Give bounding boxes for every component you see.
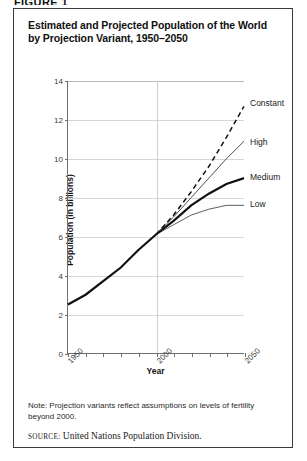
legend-label-constant: Constant <box>250 98 284 108</box>
x-tick-2040 <box>227 353 228 357</box>
figure-panel: Estimated and Projected Population of th… <box>13 8 293 448</box>
series-line-constant <box>156 106 244 234</box>
x-tick-2010 <box>174 353 175 357</box>
legend-label-medium: Medium <box>250 172 280 182</box>
chart-area: Population (in billions) 0 2 4 6 8 1 <box>14 65 294 375</box>
figure-note: Note: Projection variants reflect assump… <box>28 401 278 422</box>
x-tick-1960 <box>86 353 87 357</box>
x-tick-2020 <box>192 353 193 357</box>
source-prefix: SOURCE: <box>28 433 60 441</box>
x-tick-1980 <box>121 353 122 357</box>
y-tick-label-12: 12 <box>54 116 63 125</box>
source-text: United Nations Population Division. <box>63 431 202 441</box>
y-tick-label-6: 6 <box>59 233 63 242</box>
y-tick-label-14: 14 <box>54 77 63 86</box>
y-tick-label-8: 8 <box>59 194 63 203</box>
y-tick-label-4: 4 <box>59 272 63 281</box>
legend-label-high: High <box>250 137 267 147</box>
x-axis-label: Year <box>67 366 244 376</box>
y-tick-label-2: 2 <box>59 311 63 320</box>
figure-number-label: FIGURE 1 <box>14 0 68 5</box>
x-tick-1990 <box>139 353 140 357</box>
figure-source: SOURCE: United Nations Population Divisi… <box>28 431 280 441</box>
legend-label-low: Low <box>250 199 266 209</box>
series-lines <box>68 81 244 353</box>
y-tick-label-0: 0 <box>59 350 63 359</box>
x-tick-1970 <box>103 353 104 357</box>
series-line-high <box>68 141 244 304</box>
x-tick-label-2050: 2050 <box>243 346 262 365</box>
series-line-low <box>68 205 244 304</box>
series-line-medium <box>68 178 244 304</box>
y-tick-label-10: 10 <box>54 155 63 164</box>
figure-title: Estimated and Projected Population of th… <box>28 19 278 45</box>
plot-region: 0 2 4 6 8 10 12 14 1950 2000 2050 <box>67 81 244 354</box>
x-tick-2030 <box>210 353 211 357</box>
